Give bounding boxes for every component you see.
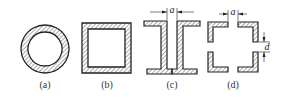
- dimension-d-d: d: [265, 41, 271, 52]
- panel-c-channels: [144, 8, 200, 74]
- panel-b-square-tube: [82, 23, 131, 73]
- panel-a-ring: [21, 25, 69, 73]
- label-b: (b): [101, 79, 113, 91]
- label-a: (a): [39, 79, 50, 91]
- dimension-a-d: a: [231, 6, 236, 17]
- label-c: (c): [166, 79, 177, 91]
- panel-d-angles: [208, 10, 270, 72]
- label-d: (d): [227, 79, 239, 91]
- dimension-a-c: a: [170, 4, 175, 15]
- cross-sections-diagram: (a) (b) a (c): [0, 0, 282, 100]
